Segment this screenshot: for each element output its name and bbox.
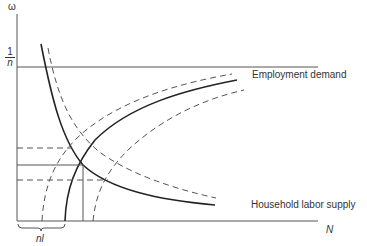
- employment-demand-curve: [65, 80, 237, 221]
- labor-supply-curve: [41, 44, 215, 205]
- y-tick-denominator: n: [5, 58, 15, 68]
- nl-label: nl: [36, 233, 44, 244]
- x-axis-label: N: [326, 224, 333, 235]
- y-axis-label: ω: [8, 1, 16, 12]
- employment-demand-label: Employment demand: [252, 69, 347, 80]
- nl-brace: [18, 224, 65, 231]
- y-tick-one-over-n: 1 n: [5, 47, 15, 68]
- employment-demand-curve-lower: [93, 90, 244, 221]
- household-labor-supply-label: Household labor supply: [251, 199, 356, 210]
